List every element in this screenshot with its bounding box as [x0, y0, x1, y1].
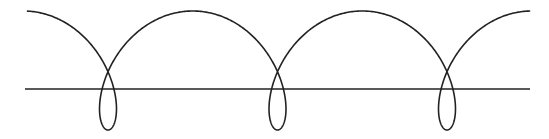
- cycloid-diagram: [0, 0, 549, 139]
- diagram-svg: [0, 0, 549, 139]
- looped-cycloid-curve: [28, 11, 530, 130]
